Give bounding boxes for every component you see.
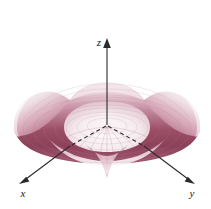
z-axis-arrowhead	[103, 38, 111, 48]
x-axis-label: x	[20, 187, 26, 199]
figure-container: z x y	[0, 0, 211, 209]
surface-plot-svg: z x y	[0, 0, 211, 209]
z-axis-label: z	[96, 36, 102, 48]
y-axis-label: y	[189, 187, 195, 199]
